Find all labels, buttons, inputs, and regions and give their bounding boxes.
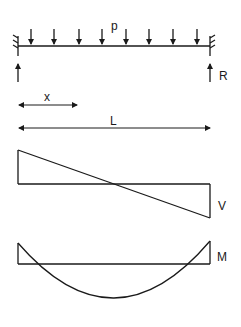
left-fixed-support-icon: [13, 35, 18, 56]
shear-diagram: [18, 150, 210, 218]
load-label: p: [111, 19, 118, 33]
right-fixed-support-icon: [210, 35, 215, 56]
moment-diagram: [18, 241, 210, 298]
beam-diagram: p R x L V M: [0, 0, 241, 327]
reaction-arrows-icon: [18, 64, 210, 82]
length-label: L: [110, 114, 117, 128]
moment-label: M: [217, 250, 227, 264]
reaction-label: R: [219, 69, 228, 83]
shear-label: V: [218, 199, 226, 213]
position-label: x: [44, 90, 50, 104]
